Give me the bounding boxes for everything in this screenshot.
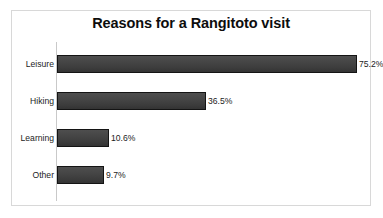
- bar-value-hiking: 36.5%: [208, 96, 232, 106]
- bar-label-hiking: Hiking: [30, 96, 54, 106]
- bar-row-hiking: Hiking 36.5%: [12, 92, 372, 110]
- bar-label-other: Other: [33, 170, 55, 180]
- bar-value-leisure: 75.2%: [359, 59, 383, 69]
- plot-area: Leisure 75.2% Hiking 36.5% Learning 10.6…: [12, 40, 372, 207]
- bar-hiking[interactable]: [57, 92, 206, 110]
- bar-row-learning: Learning 10.6%: [12, 129, 372, 147]
- bar-value-other: 9.7%: [106, 170, 126, 180]
- bar-leisure[interactable]: [57, 55, 357, 73]
- chart-frame: Reasons for a Rangitoto visit Leisure 75…: [11, 10, 371, 206]
- bar-row-leisure: Leisure 75.2%: [12, 55, 372, 73]
- bar-label-leisure: Leisure: [26, 59, 54, 69]
- bar-value-learning: 10.6%: [111, 133, 135, 143]
- bar-label-learning: Learning: [21, 133, 54, 143]
- bar-other[interactable]: [57, 166, 104, 184]
- chart-title: Reasons for a Rangitoto visit: [12, 15, 370, 31]
- bar-learning[interactable]: [57, 129, 109, 147]
- bar-row-other: Other 9.7%: [12, 166, 372, 184]
